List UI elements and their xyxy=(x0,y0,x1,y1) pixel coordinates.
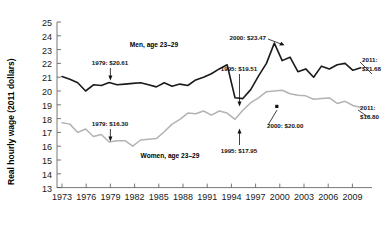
women-series-line xyxy=(62,90,361,146)
annotation-men-2000: 2000: $23.47 xyxy=(230,34,267,41)
y-axis-title: Real hourly wage (2011 dollars) xyxy=(6,58,16,185)
y-tick-13: 13 xyxy=(42,184,52,194)
series-label-women: Women, age 23–29 xyxy=(141,152,200,160)
x-tick-2000: 2000 xyxy=(270,192,290,202)
x-tick-1976: 1976 xyxy=(76,192,96,202)
x-tick-1994: 1994 xyxy=(221,192,241,202)
annotation-women-2011-year: 2011: xyxy=(360,104,375,111)
x-tick-1982: 1982 xyxy=(125,192,145,202)
y-tick-24: 24 xyxy=(42,32,52,42)
annotation-women-2011-value: $18.80 xyxy=(360,113,379,120)
arrowhead-women-1979 xyxy=(108,137,112,142)
y-tick-20: 20 xyxy=(42,87,52,97)
x-tick-1988: 1988 xyxy=(173,192,193,202)
y-tick-17: 17 xyxy=(42,128,52,138)
annotation-men-1979: 1979: $20.61 xyxy=(92,59,129,66)
x-axis-tick-labels: 1973 1976 1979 1982 1985 1988 1991 1994 … xyxy=(52,192,362,202)
y-tick-21: 21 xyxy=(42,73,52,83)
wage-line-chart: Real hourly wage (2011 dollars) 25 24 23… xyxy=(0,0,382,232)
x-tick-1991: 1991 xyxy=(197,192,217,202)
chart-container: Real hourly wage (2011 dollars) 25 24 23… xyxy=(0,0,382,232)
marker-women-2000 xyxy=(275,105,278,108)
x-tick-1973: 1973 xyxy=(52,192,72,202)
annotation-men-2011-value: $21.68 xyxy=(362,65,381,72)
annotation-women-1995: 1995: $17.95 xyxy=(221,147,258,154)
x-tick-1979: 1979 xyxy=(100,192,120,202)
annotation-men-2011-year: 2011: xyxy=(362,56,377,63)
y-tick-23: 23 xyxy=(42,46,52,56)
x-tick-2009: 2009 xyxy=(342,192,362,202)
men-series-line xyxy=(62,43,361,98)
annotation-women-1979: 1979: $16.30 xyxy=(92,120,129,127)
x-tick-2006: 2006 xyxy=(318,192,338,202)
arrowhead-men-1979 xyxy=(108,76,112,81)
annotation-women-2000: 2000: $20.00 xyxy=(267,122,304,129)
series-label-men: Men, age 23–29 xyxy=(130,41,179,49)
y-tick-15: 15 xyxy=(42,156,52,166)
x-axis xyxy=(57,184,372,188)
x-tick-2003: 2003 xyxy=(294,192,314,202)
x-tick-1985: 1985 xyxy=(149,192,169,202)
y-axis-tick-labels: 25 24 23 22 21 20 19 18 17 16 15 14 13 xyxy=(42,18,52,194)
y-tick-22: 22 xyxy=(42,59,52,69)
annotation-leaders xyxy=(108,39,372,145)
y-tick-16: 16 xyxy=(42,142,52,152)
y-axis xyxy=(57,22,61,188)
y-tick-19: 19 xyxy=(42,101,52,111)
x-tick-1997: 1997 xyxy=(246,192,266,202)
y-tick-14: 14 xyxy=(42,170,52,180)
annotation-men-1995: 1995: $19.51 xyxy=(221,65,258,72)
y-tick-18: 18 xyxy=(42,115,52,125)
y-tick-25: 25 xyxy=(42,18,52,28)
arrowhead-men-1995 xyxy=(238,102,242,107)
arrowhead-women-1995 xyxy=(238,129,242,134)
